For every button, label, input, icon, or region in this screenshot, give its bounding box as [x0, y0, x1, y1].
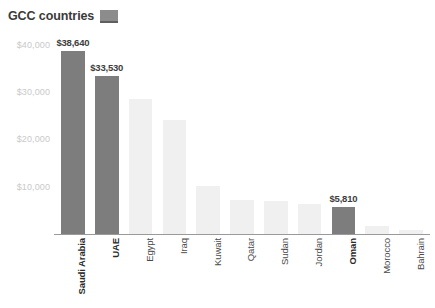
bar-slot[interactable] — [196, 26, 220, 234]
bar-slot[interactable] — [129, 26, 153, 234]
x-axis-tick-label: Oman — [347, 238, 358, 265]
x-axis-tick-label: Jordan — [313, 238, 324, 266]
x-axis-tick: Saudi Arabia — [56, 236, 90, 308]
x-axis-tick: Egypt — [124, 236, 158, 308]
chart-legend: GCC countries — [8, 8, 118, 24]
x-axis-tick: Iraq — [157, 236, 191, 308]
bar-slot[interactable]: $33,530 — [95, 26, 119, 234]
bar[interactable] — [61, 51, 85, 234]
bar-slot[interactable] — [230, 26, 254, 234]
bar-value-label: $33,530 — [90, 62, 123, 73]
x-axis-tick: Bahrain — [394, 236, 428, 308]
x-axis-tick-label: UAE — [110, 238, 121, 258]
bar-slot[interactable] — [264, 26, 288, 234]
y-axis-tick: $10,000 — [17, 182, 50, 192]
legend-swatch-icon — [100, 10, 118, 23]
bar-value-label: $38,640 — [56, 37, 89, 48]
bar[interactable] — [399, 230, 423, 234]
bar[interactable] — [129, 99, 153, 234]
y-axis-tick: $20,000 — [17, 134, 50, 144]
bar[interactable] — [196, 186, 220, 234]
y-axis-labels: $10,000$20,000$30,000$40,000 — [0, 26, 54, 234]
bar-slot[interactable] — [399, 26, 423, 234]
bar[interactable] — [230, 200, 254, 234]
x-axis-tick-label: Egypt — [144, 238, 155, 262]
bar-chart: GCC countries $10,000$20,000$30,000$40,0… — [0, 0, 435, 308]
x-axis-tick-label: Saudi Arabia — [76, 238, 87, 295]
x-axis-tick-label: Kuwait — [212, 238, 223, 266]
bar-slot[interactable]: $5,810 — [332, 26, 356, 234]
x-axis-tick: UAE — [90, 236, 124, 308]
x-axis-labels: Saudi ArabiaUAEEgyptIraqKuwaitQatarSudan… — [56, 236, 428, 308]
bar-slot[interactable] — [298, 26, 322, 234]
x-axis-tick-label: Morocco — [381, 238, 392, 274]
x-axis-tick: Oman — [327, 236, 361, 308]
bar-series: $38,640$33,530$5,810 — [56, 26, 428, 234]
x-axis-tick-label: Bahrain — [415, 238, 426, 270]
x-axis-tick: Qatar — [225, 236, 259, 308]
y-axis-tick: $40,000 — [17, 40, 50, 50]
bar[interactable] — [264, 201, 288, 234]
x-axis-tick: Sudan — [259, 236, 293, 308]
x-axis-tick: Kuwait — [191, 236, 225, 308]
x-axis-tick: Morocco — [360, 236, 394, 308]
x-axis-tick-label: Sudan — [279, 238, 290, 265]
bar[interactable] — [163, 120, 187, 234]
bar-slot[interactable] — [365, 26, 389, 234]
x-axis-tick-label: Qatar — [245, 238, 256, 261]
bar[interactable] — [95, 76, 119, 235]
bar-slot[interactable]: $38,640 — [61, 26, 85, 234]
bar-value-label: $5,810 — [330, 193, 358, 204]
bar[interactable] — [332, 207, 356, 234]
bar-slot[interactable] — [163, 26, 187, 234]
bar[interactable] — [298, 204, 322, 234]
y-axis-tick: $30,000 — [17, 87, 50, 97]
bar[interactable] — [365, 226, 389, 234]
legend-label: GCC countries — [8, 9, 94, 23]
x-axis-line — [54, 234, 430, 235]
x-axis-tick: Jordan — [293, 236, 327, 308]
x-axis-tick-label: Iraq — [178, 238, 189, 254]
